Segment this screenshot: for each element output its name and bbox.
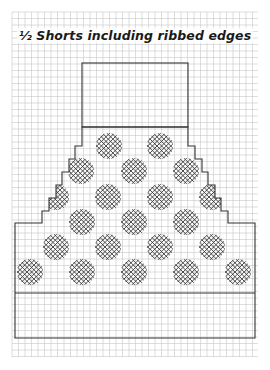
knitting-chart: ½ Shorts including ribbed edges [0, 0, 270, 370]
crosshatch-dot [95, 209, 172, 235]
crosshatch-dot [17, 234, 94, 260]
crosshatch-dot [121, 234, 198, 260]
crosshatch-dot [69, 234, 146, 260]
chart-title: ½ Shorts including ribbed edges [0, 28, 270, 43]
crosshatch-dot [173, 234, 250, 260]
crosshatch-dot [42, 158, 119, 184]
graph-paper-grid [12, 12, 258, 357]
crosshatch-dot [43, 209, 120, 235]
crosshatch-dot [147, 209, 224, 235]
waistband-outline [82, 63, 188, 127]
crosshatch-dot [17, 184, 94, 210]
crosshatch-dot [173, 184, 250, 210]
crosshatch-dot [147, 158, 224, 184]
crosshatch-dot [69, 184, 146, 210]
crosshatch-dot [121, 184, 198, 210]
crosshatch-dots [0, 133, 270, 285]
chart-canvas [0, 0, 270, 370]
chart-title-text: ½ Shorts including ribbed edges [17, 28, 253, 43]
crosshatch-dot [95, 158, 172, 184]
